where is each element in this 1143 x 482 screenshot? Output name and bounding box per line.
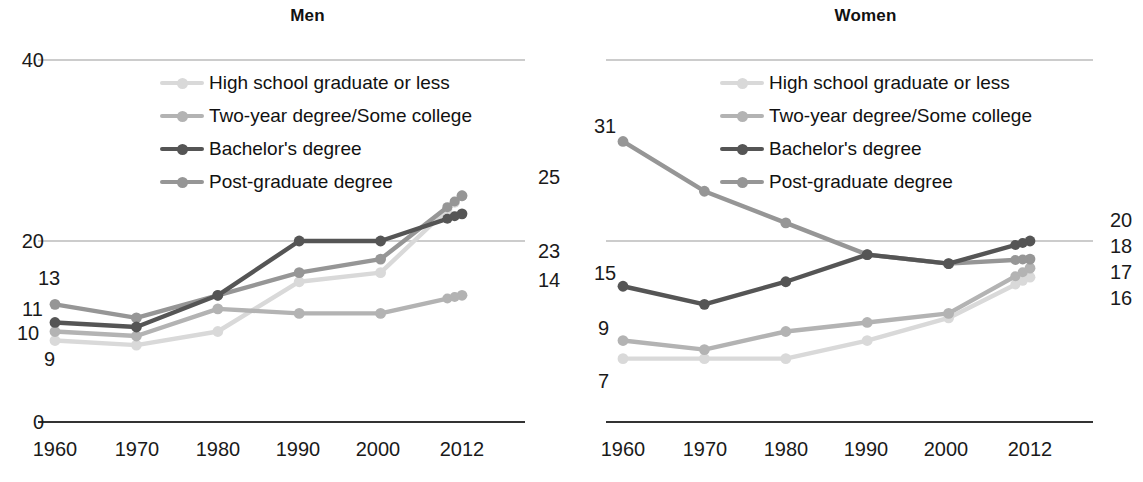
value-label-women-postgrad-end: 18	[1110, 236, 1132, 256]
legend-dot-icon	[737, 111, 748, 122]
legend-item-high-school[interactable]: High school graduate or less	[160, 70, 450, 96]
legend-item-post-graduate[interactable]: Post-graduate degree	[720, 169, 953, 195]
xtick-2000: 2000	[343, 438, 413, 460]
legend-swatch-icon-bachelor	[160, 142, 204, 156]
legend-dot-icon	[177, 111, 188, 122]
legend-item-bachelor[interactable]: Bachelor's degree	[160, 136, 362, 162]
legend-swatch-icon-bachelor	[720, 142, 764, 156]
legend-item-bachelor[interactable]: Bachelor's degree	[720, 136, 922, 162]
xtick-1970: 1970	[102, 438, 172, 460]
series-lines-men	[50, 190, 468, 350]
panel-men: Men 40 20 0 1960 1970 1980 1990 2000 201…	[0, 0, 575, 482]
value-label-women-bachelor-start: 15	[594, 263, 616, 283]
legend-swatch-icon-two-year	[720, 109, 764, 123]
xtick-1990: 1990	[263, 438, 333, 460]
legend-dot-icon	[177, 144, 188, 155]
value-label-men-bachelor-start: 11	[22, 299, 43, 319]
legend-swatch-icon-post-graduate	[720, 175, 764, 189]
ytick-40: 40	[0, 50, 44, 70]
legend-item-high-school[interactable]: High school graduate or less	[720, 70, 1010, 96]
value-label-women-twoyear-start: 9	[598, 318, 609, 338]
value-label-men-postgrad-start: 13	[38, 268, 60, 288]
ytick-20: 20	[0, 231, 44, 251]
legend-label-two-year: Two-year degree/Some college	[209, 106, 472, 126]
xtick-1960: 1960	[588, 438, 658, 460]
legend-label-two-year: Two-year degree/Some college	[769, 106, 1032, 126]
legend-dot-icon	[737, 78, 748, 89]
value-label-women-hs-start: 7	[598, 371, 609, 391]
value-label-women-twoyear-end: 17	[1110, 262, 1132, 282]
legend-label-high-school: High school graduate or less	[209, 73, 450, 93]
legend-swatch-icon-two-year	[160, 109, 204, 123]
legend-dot-icon	[737, 177, 748, 188]
value-label-men-hs-start: 9	[44, 349, 55, 369]
value-label-women-postgrad-start: 31	[594, 116, 616, 136]
ytick-0: 0	[0, 412, 44, 432]
xtick-1980: 1980	[751, 438, 821, 460]
xtick-1970: 1970	[670, 438, 740, 460]
legend-swatch-icon-post-graduate	[160, 175, 204, 189]
legend-item-two-year[interactable]: Two-year degree/Some college	[720, 103, 1032, 129]
legend-dot-icon	[177, 177, 188, 188]
legend-item-post-graduate[interactable]: Post-graduate degree	[160, 169, 393, 195]
value-label-women-bachelor-end: 20	[1110, 210, 1132, 230]
xtick-1980: 1980	[183, 438, 253, 460]
value-label-men-hs-end: 25	[538, 167, 560, 187]
legend-swatch-icon-high-school	[720, 76, 764, 90]
legend-label-bachelor: Bachelor's degree	[769, 139, 922, 159]
xtick-2012: 2012	[995, 438, 1065, 460]
xtick-1960: 1960	[20, 438, 90, 460]
legend-label-high-school: High school graduate or less	[769, 73, 1010, 93]
legend-item-two-year[interactable]: Two-year degree/Some college	[160, 103, 472, 129]
value-label-women-hs-end: 16	[1110, 288, 1132, 308]
xtick-1990: 1990	[831, 438, 901, 460]
value-label-men-bachelor-end: 23	[538, 241, 560, 261]
panel-women: Women 1960 1970 1980 1990 2000 2012 31 1…	[568, 0, 1143, 482]
xtick-2012: 2012	[427, 438, 497, 460]
legend-label-post-graduate: Post-graduate degree	[769, 172, 953, 192]
xtick-2000: 2000	[911, 438, 981, 460]
chart-figure: Men 40 20 0 1960 1970 1980 1990 2000 201…	[0, 0, 1143, 482]
value-label-men-twoyear-start: 10	[17, 323, 39, 343]
legend-swatch-icon-high-school	[160, 76, 204, 90]
legend-label-post-graduate: Post-graduate degree	[209, 172, 393, 192]
value-label-men-twoyear-end: 14	[538, 270, 560, 290]
legend-dot-icon	[177, 78, 188, 89]
legend-dot-icon	[737, 144, 748, 155]
legend-label-bachelor: Bachelor's degree	[209, 139, 362, 159]
